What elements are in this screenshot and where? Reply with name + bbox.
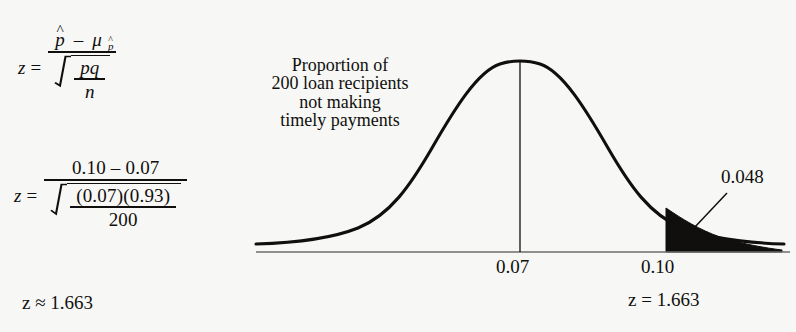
area-leader-line (694, 193, 727, 228)
z-result: z ≈ 1.663 (22, 292, 93, 314)
inner-denominator: 200 (103, 208, 144, 230)
formula-general-fraction: p ^ – μ p ^ (48, 30, 116, 106)
z-formula-numeric: z = 0.10 – 0.07 (0.07)(0.93) (14, 158, 187, 234)
hat-accent: ^ (56, 22, 63, 38)
radicand: (0.07)(0.93) 200 (67, 183, 181, 230)
p-hat-symbol: p ^ (55, 30, 65, 50)
square-root: pq n (54, 55, 110, 102)
caption-line-1: Proportion of (234, 56, 446, 74)
inner-numerator: (0.07)(0.93) (70, 186, 176, 207)
formula-general-lhs: z (18, 57, 30, 79)
formula-numeric-lhs: z (14, 185, 26, 207)
caption-line-4: timely payments (234, 111, 446, 129)
formula-numeric-numerator: 0.10 – 0.07 (66, 158, 166, 179)
square-root: (0.07)(0.93) 200 (50, 183, 181, 230)
radical-sign-icon (54, 55, 71, 102)
xtick-label-observed: 0.10 (641, 256, 674, 278)
z-critical-label: z = 1.663 (628, 289, 699, 311)
statistics-figure: z = p ^ – μ p ^ (0, 0, 796, 332)
inner-denominator: n (79, 80, 101, 102)
formula-numeric-denominator: (0.07)(0.93) 200 (44, 181, 187, 234)
mu-subscript-hat-accent: ^ (108, 35, 113, 45)
caption-line-3: not making (234, 93, 446, 111)
formula-general-numerator: p ^ – μ p ^ (49, 30, 115, 51)
mu-p-hat-symbol: μ p ^ (92, 29, 109, 50)
mu-subscript: p ^ (108, 41, 114, 53)
mu-base: μ (92, 29, 102, 50)
inner-numerator: pq (74, 58, 105, 79)
xtick-label-mean: 0.07 (496, 256, 529, 278)
radicand: pq n (71, 55, 110, 102)
minus-sign: – (69, 29, 89, 50)
caption-line-2: 200 loan recipients (234, 74, 446, 92)
radical-sign-icon (50, 183, 67, 230)
tail-area-label: 0.048 (721, 166, 764, 188)
z-formula-general: z = p ^ – μ p ^ (18, 30, 116, 106)
formula-general-equals: = (30, 57, 48, 79)
formula-numeric-fraction: 0.10 – 0.07 (0.07)(0.93) (44, 158, 187, 234)
inner-fraction: pq n (74, 58, 105, 102)
curve-caption: Proportion of 200 loan recipients not ma… (234, 56, 446, 129)
formula-numeric-equals: = (26, 185, 44, 207)
formula-general-denominator: pq n (48, 53, 116, 106)
inner-fraction: (0.07)(0.93) 200 (70, 186, 176, 230)
